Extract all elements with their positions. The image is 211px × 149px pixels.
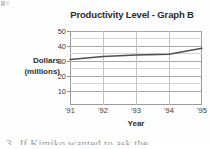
x-tick-label-93: '93: [125, 107, 147, 115]
x-axis-label: Year: [70, 119, 202, 128]
x-tick-label-95: '95: [191, 107, 211, 115]
series-line-productivity: [70, 31, 202, 105]
scan-artifact-speck-secondary: [6, 1, 9, 5]
page-bottom-clip: [0, 145, 211, 149]
x-tick-label-91: '91: [59, 107, 81, 115]
chart-title: Productivity Level - Graph B: [56, 9, 208, 20]
x-tick-label-92: '92: [92, 107, 114, 115]
scanned-page: Productivity Level - Graph B Dollars (mi…: [0, 0, 211, 149]
y-tick-label-10: 10: [50, 88, 66, 96]
x-tick-label-94: '94: [158, 107, 180, 115]
y-tick-label-40: 40: [50, 43, 66, 51]
y-tick-label-50: 50: [50, 28, 66, 36]
y-tick-label-30: 30: [50, 58, 66, 66]
y-tick-label-20: 20: [50, 73, 66, 81]
scan-artifact-speck: [1, 1, 5, 6]
plot-area: [70, 31, 202, 105]
